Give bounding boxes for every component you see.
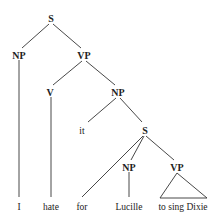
node-v: V [46,87,54,98]
node-s-embedded: S [142,125,148,136]
edge-vp-v [53,61,82,85]
edge-np-it [88,98,116,122]
node-np-object: NP [111,87,124,98]
edge-vp-np [86,61,115,85]
leaf-to-sing-dixie: to sing Dixie [158,202,207,212]
syntax-tree: S NP VP V NP it S NP VP I hate for Lucil… [0,0,221,224]
leaf-i: I [17,202,20,212]
edge-s-vp [53,24,81,48]
edge-s-np [22,24,49,48]
node-it: it [79,126,85,136]
leaf-for: for [76,202,88,212]
edge-s-vp [146,136,174,160]
leaf-hate: hate [43,202,59,212]
node-s-root: S [48,13,54,24]
edge-s-np [131,136,144,160]
edge-np-s [120,98,142,122]
node-np-embedded: NP [122,162,135,173]
leaf-lucille: Lucille [116,202,143,212]
node-np-subject: NP [12,50,25,61]
node-vp-embedded: VP [170,162,183,173]
triangle-vp [160,173,207,198]
node-vp-main: VP [77,50,90,61]
